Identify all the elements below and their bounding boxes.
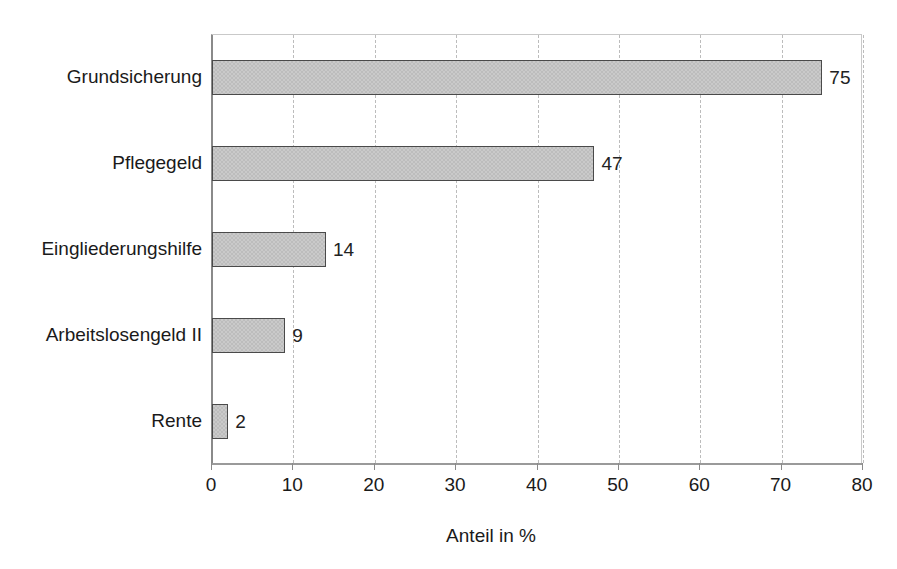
bar — [212, 404, 228, 439]
bar — [212, 318, 285, 353]
bar-chart: GrundsicherungPflegegeldEingliederungshi… — [0, 0, 897, 569]
x-axis-title: Anteil in % — [0, 525, 897, 547]
x-tick-label-70: 70 — [770, 474, 791, 496]
bar-value-label: 14 — [326, 232, 354, 267]
x-tick-label-10: 10 — [282, 474, 303, 496]
bar-row: 2 — [212, 404, 863, 439]
x-axis-title-label: Anteil in % — [446, 525, 536, 547]
x-tick-80 — [862, 463, 863, 470]
category-label: Pflegegeld — [11, 145, 211, 180]
plot-area: 75471492 — [211, 34, 862, 463]
x-tick-20 — [374, 463, 375, 470]
category-label: Eingliederungshilfe — [11, 231, 211, 266]
bar-value-label: 2 — [228, 404, 246, 439]
x-tick-label-60: 60 — [689, 474, 710, 496]
bar-row: 9 — [212, 318, 863, 353]
x-tick-label-0: 0 — [206, 474, 217, 496]
x-tick-40 — [537, 463, 538, 470]
bar — [212, 60, 822, 95]
category-label: Grundsicherung — [11, 59, 211, 94]
bar — [212, 146, 594, 181]
bar-row: 47 — [212, 146, 863, 181]
bar-row: 75 — [212, 60, 863, 95]
bar-value-label: 75 — [822, 60, 850, 95]
x-tick-70 — [781, 463, 782, 470]
bar — [212, 232, 326, 267]
x-tick-10 — [292, 463, 293, 470]
x-tick-30 — [455, 463, 456, 470]
x-tick-label-30: 30 — [445, 474, 466, 496]
x-tick-label-50: 50 — [607, 474, 628, 496]
x-tick-label-80: 80 — [851, 474, 872, 496]
gridline-80 — [863, 35, 864, 463]
category-axis-labels: GrundsicherungPflegegeldEingliederungshi… — [0, 34, 211, 463]
x-tick-60 — [699, 463, 700, 470]
x-tick-0 — [211, 463, 212, 470]
category-label: Arbeitslosengeld II — [11, 317, 211, 352]
bar-value-label: 47 — [594, 146, 622, 181]
bar-row: 14 — [212, 232, 863, 267]
category-label: Rente — [11, 403, 211, 438]
x-tick-label-20: 20 — [363, 474, 384, 496]
x-tick-label-40: 40 — [526, 474, 547, 496]
bar-value-label: 9 — [285, 318, 303, 353]
x-tick-50 — [618, 463, 619, 470]
